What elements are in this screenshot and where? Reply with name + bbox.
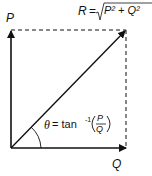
label-r-expression: P² + Q² [104, 5, 140, 16]
label-theta-sup: -1 [85, 116, 91, 123]
diagram-graphics [0, 0, 152, 176]
label-theta: θ [44, 119, 50, 131]
theta-angle-arc [31, 127, 41, 148]
label-frac-num: P [97, 114, 103, 123]
paren-left [92, 116, 95, 132]
label-p: P [6, 12, 14, 24]
label-frac-den: Q [96, 125, 103, 134]
label-r: R [78, 5, 87, 17]
paren-right [107, 116, 110, 132]
label-q: Q [112, 158, 121, 170]
label-theta-eq: = tan [52, 119, 77, 130]
vector-diagram: P R = P² + Q² θ = tan -1 P Q Q [0, 0, 152, 176]
label-r-equals: = [89, 5, 96, 17]
